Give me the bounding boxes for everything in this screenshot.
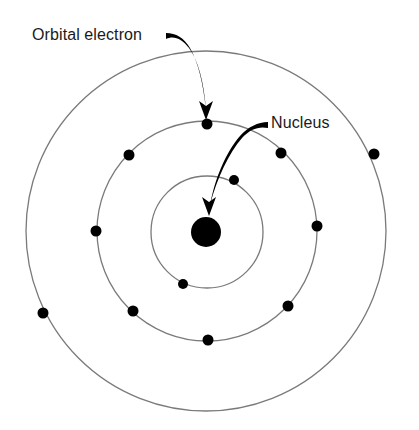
electron-middle-6 (124, 150, 135, 161)
electron-inner-1 (229, 175, 239, 185)
nucleus-arrow-head (202, 197, 216, 216)
electron-middle-2 (276, 148, 287, 159)
atom-diagram: Orbital electron Nucleus (0, 0, 419, 430)
electron-inner-2 (178, 279, 188, 289)
nucleus-pointer (202, 122, 268, 216)
electron-middle-1 (202, 119, 213, 130)
electron-outer-2 (312, 221, 323, 232)
nucleus-label: Nucleus (271, 114, 330, 131)
electron-outer-3 (91, 226, 102, 237)
electron-outer-1 (369, 149, 380, 160)
orbital-electron-arrow-head (199, 101, 213, 120)
orbital-electron-pointer (166, 33, 213, 120)
electron-middle-5 (128, 306, 139, 317)
orbital-electron-label: Orbital electron (32, 26, 142, 43)
electron-middle-4 (203, 335, 214, 346)
nucleus-circle (191, 217, 221, 247)
atom-diagram-canvas: Orbital electron Nucleus (0, 0, 419, 430)
electron-middle-3 (283, 301, 294, 312)
orbital-electron-arrow-shaft (166, 33, 206, 110)
electron-outer-4 (38, 308, 49, 319)
